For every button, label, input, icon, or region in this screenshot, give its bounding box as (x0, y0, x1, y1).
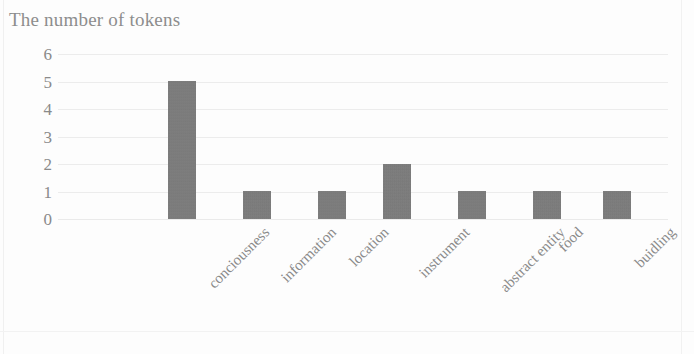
page-border-left (3, 0, 4, 354)
x-axis-tick-label: conciousness (205, 224, 272, 291)
bars-group (58, 54, 668, 220)
page-border-bottom (0, 331, 694, 332)
chart-figure: The number of tokens 6543210 conciousnes… (0, 0, 694, 354)
x-axis-tick-label: buidling (632, 224, 679, 271)
y-axis-tick-label: 4 (30, 101, 52, 118)
bar (168, 81, 196, 219)
bar (243, 191, 271, 219)
y-axis-tick-label: 5 (30, 74, 52, 91)
bar (603, 191, 631, 219)
y-axis: 6543210 (30, 42, 52, 232)
y-axis-tick-label: 0 (30, 211, 52, 228)
x-axis: conciousnessinformationlocationinstrumen… (58, 224, 678, 324)
chart-title: The number of tokens (9, 8, 180, 32)
bar (458, 191, 486, 219)
y-axis-tick-label: 1 (30, 184, 52, 201)
x-axis-tick-label: instrument (416, 224, 473, 281)
bar (383, 164, 411, 219)
x-axis-tick-label: location (346, 224, 391, 269)
bar (318, 191, 346, 219)
x-axis-tick-label: abstract entity (497, 224, 568, 295)
page-border-right (681, 0, 682, 354)
y-axis-tick-label: 3 (30, 129, 52, 146)
bar (533, 191, 561, 219)
x-axis-tick-label: information (278, 224, 339, 285)
y-axis-tick-label: 6 (30, 46, 52, 63)
y-axis-tick-label: 2 (30, 156, 52, 173)
